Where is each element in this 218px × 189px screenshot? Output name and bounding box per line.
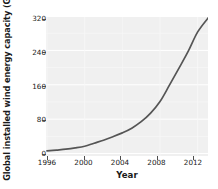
x-tick-label-2004: 2004 [103,159,137,167]
x-axis: 1996 2000 2004 2008 2012 [0,0,218,189]
x-tick-mark-1996 [47,156,48,160]
x-tick-label-2012: 2012 [176,159,210,167]
x-tick-label-1996: 1996 [30,159,64,167]
x-tick-mark-2008 [157,156,158,160]
x-tick-mark-2000 [84,156,85,160]
x-tick-label-2008: 2008 [140,159,174,167]
chart-figure: Global installed wind energy capacity (G… [0,0,218,189]
x-tick-mark-2004 [120,156,121,160]
x-tick-mark-2012 [193,156,194,160]
x-tick-label-2000: 2000 [67,159,101,167]
